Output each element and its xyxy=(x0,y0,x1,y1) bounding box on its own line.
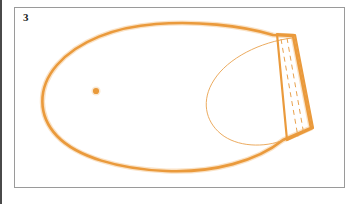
figure-frame: 3 xyxy=(14,7,345,188)
page-edge-rule xyxy=(0,0,2,204)
pattern-drawing xyxy=(15,8,346,189)
page-root: 3 xyxy=(0,0,361,204)
center-dot-halo xyxy=(91,86,100,95)
main-outline xyxy=(42,23,311,171)
